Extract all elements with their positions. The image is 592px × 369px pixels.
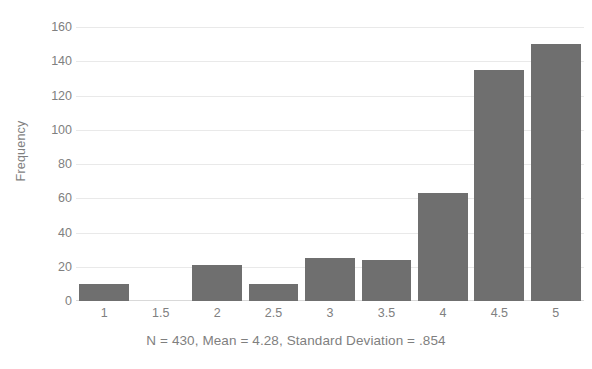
y-axis-tick-label: 160 xyxy=(51,20,72,34)
y-axis-tick-label: 80 xyxy=(58,157,72,171)
bar xyxy=(531,44,581,301)
gridline xyxy=(76,27,584,28)
bar xyxy=(305,258,355,301)
plot-area xyxy=(76,27,584,301)
bar xyxy=(249,284,299,301)
x-axis-tick-label: 3 xyxy=(327,306,334,320)
bar xyxy=(362,260,412,301)
x-axis-tick-label: 4.5 xyxy=(491,306,508,320)
bar xyxy=(79,284,129,301)
x-axis-tick-label: 2.5 xyxy=(265,306,282,320)
x-axis-tick-label: 3.5 xyxy=(378,306,395,320)
bar xyxy=(418,193,468,301)
bar xyxy=(474,70,524,301)
y-axis-title: Frequency xyxy=(10,0,32,301)
y-axis-tick-label: 40 xyxy=(58,226,72,240)
y-axis-tick-label: 20 xyxy=(58,260,72,274)
x-axis-tick-label: 5 xyxy=(552,306,559,320)
bar xyxy=(192,265,242,301)
x-axis-tick-labels: 11.522.533.544.55 xyxy=(76,306,584,328)
x-axis-tick-label: 4 xyxy=(439,306,446,320)
y-axis-tick-label: 0 xyxy=(65,294,72,308)
y-axis-tick-label: 140 xyxy=(51,54,72,68)
gridline xyxy=(76,61,584,62)
x-axis-tick-label: 2 xyxy=(214,306,221,320)
y-axis-tick-label: 120 xyxy=(51,89,72,103)
y-axis-tick-labels: 160140120100806040200 xyxy=(34,27,72,301)
y-axis-tick-label: 60 xyxy=(58,191,72,205)
y-axis-title-label: Frequency xyxy=(14,120,28,181)
x-axis-tick-label: 1 xyxy=(101,306,108,320)
y-axis-tick-label: 100 xyxy=(51,123,72,137)
x-axis-caption: N = 430, Mean = 4.28, Standard Deviation… xyxy=(0,333,592,348)
histogram-chart: Frequency 160140120100806040200 11.522.5… xyxy=(0,0,592,369)
x-axis-tick-label: 1.5 xyxy=(152,306,169,320)
